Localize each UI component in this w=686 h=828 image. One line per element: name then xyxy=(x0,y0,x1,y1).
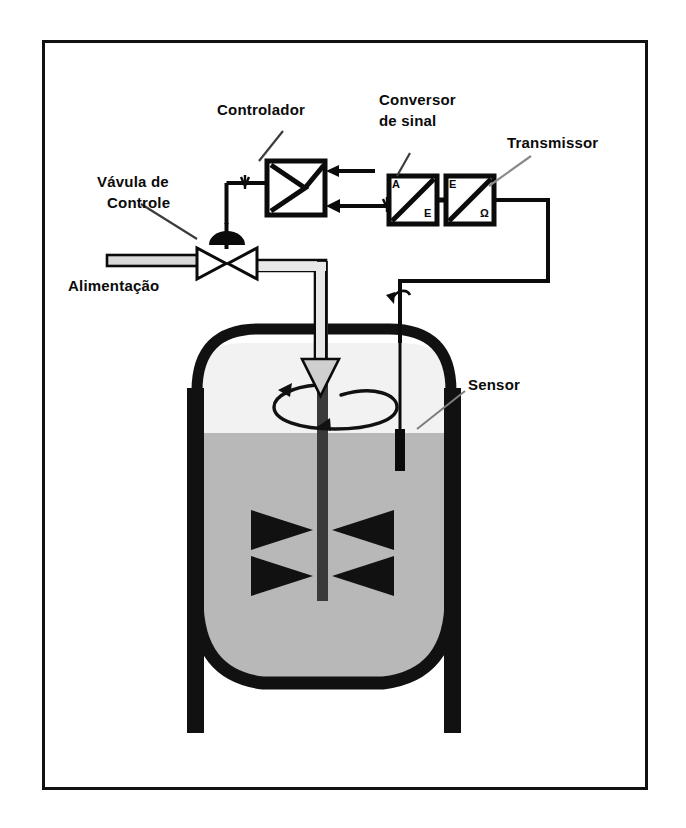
label-sensor: Sensor xyxy=(468,376,520,394)
vessel-left-wall-leg xyxy=(187,388,204,733)
leader-transmissor xyxy=(489,156,531,186)
leader-controlador xyxy=(259,131,283,161)
label-transmissor: Transmissor xyxy=(507,134,598,152)
label-conversor-line2: de sinal xyxy=(379,112,436,130)
valve-body-left xyxy=(197,248,226,279)
converter-output-label: E xyxy=(424,208,431,219)
sensor-probe-rod xyxy=(399,343,402,433)
feed-pipe-inlet xyxy=(107,255,204,266)
control-valve[interactable] xyxy=(197,183,257,279)
label-alimentacao: Alimentação xyxy=(68,277,159,295)
feed-pipe-fill-vertical xyxy=(316,262,325,360)
label-valvula-line1: Vávula de xyxy=(97,173,169,191)
valve-body-right xyxy=(228,248,257,279)
leader-conversor xyxy=(397,153,410,176)
process-flow-diagram xyxy=(45,43,645,787)
label-valvula-line2: Controle xyxy=(107,194,170,212)
controller-measurement-arrowhead xyxy=(326,199,340,213)
controller-setpoint-arrowhead xyxy=(326,165,339,177)
vessel-right-wall-leg xyxy=(444,388,461,733)
label-controlador: Controlador xyxy=(217,101,305,119)
valve-actuator-dome xyxy=(209,231,245,245)
diagram-page: A E E Ω Controlador Conversor de sinal T… xyxy=(0,0,686,828)
transmitter-output-label: Ω xyxy=(480,208,489,219)
diagram-frame: A E E Ω Controlador Conversor de sinal T… xyxy=(42,40,648,790)
signal-hatch-marker-1 xyxy=(241,175,249,189)
label-conversor-line1: Conversor xyxy=(379,91,456,109)
transmitter-input-label: E xyxy=(449,179,456,190)
sensor-probe-tip xyxy=(395,429,405,471)
converter-input-label: A xyxy=(392,179,400,190)
